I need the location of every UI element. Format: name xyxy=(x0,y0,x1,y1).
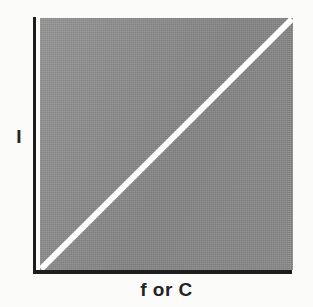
y-axis-label: I xyxy=(8,126,30,148)
y-axis-line xyxy=(33,17,36,273)
plot-area xyxy=(40,18,293,270)
data-line-series-1 xyxy=(41,19,292,269)
chart-figure: I f or C xyxy=(0,0,313,307)
x-axis-line xyxy=(33,270,292,274)
x-axis-label: f or C xyxy=(40,279,293,301)
data-line-svg xyxy=(40,18,293,270)
